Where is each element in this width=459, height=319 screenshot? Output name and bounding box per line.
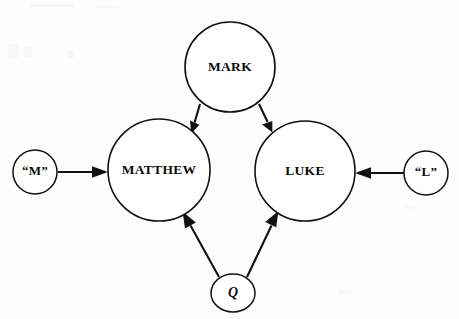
diagram-canvas: MARK MATTHEW LUKE “M” “L” <box>0 0 459 319</box>
edge-m-to-matthew <box>58 166 108 178</box>
edge-line <box>259 104 268 122</box>
node-q-source[interactable]: Q <box>211 274 255 312</box>
node-q-source-label: Q <box>228 285 238 300</box>
arrowhead-icon <box>355 167 371 179</box>
edge-q-to-matthew <box>183 212 219 278</box>
edges-layer <box>58 104 404 277</box>
nodes-layer: MARK MATTHEW LUKE “M” “L” <box>13 22 448 312</box>
node-m-source-label: “M” <box>22 163 48 178</box>
node-mark-label: MARK <box>208 59 252 74</box>
arrowhead-icon <box>92 166 108 178</box>
edge-line <box>247 226 272 278</box>
node-matthew[interactable]: MATTHEW <box>108 119 210 221</box>
node-mark[interactable]: MARK <box>185 22 275 112</box>
node-m-source[interactable]: “M” <box>13 150 57 194</box>
source-dependency-diagram: MARK MATTHEW LUKE “M” “L” <box>0 0 459 319</box>
arrowhead-icon <box>262 121 272 133</box>
arrowhead-icon <box>265 211 278 227</box>
node-l-source-label: “L” <box>415 164 437 179</box>
node-l-source[interactable]: “L” <box>404 151 448 195</box>
edge-line <box>195 104 200 123</box>
edge-line <box>191 226 220 278</box>
node-luke[interactable]: LUKE <box>255 121 355 221</box>
edge-l-to-luke <box>355 167 404 179</box>
edge-mark-to-matthew <box>190 104 200 134</box>
node-luke-label: LUKE <box>285 163 324 178</box>
edge-q-to-luke <box>247 211 278 277</box>
edge-mark-to-luke <box>259 104 272 133</box>
node-matthew-label: MATTHEW <box>122 162 197 177</box>
